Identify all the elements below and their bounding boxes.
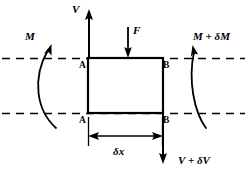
length-label: δx [113,146,124,157]
moment-right-label: M + δM [193,31,230,42]
moment-right-arc [191,45,206,128]
shear-force-left-arrow [85,9,93,58]
node-label-a-top: A [79,61,86,71]
length-dimension-line [88,117,163,146]
beam-element-rectangle [88,58,163,113]
node-label-b-top: B [163,61,169,71]
moment-left-arc [38,44,56,128]
node-label-a-bottom: A [79,116,86,126]
shear-right-label: V + δV [178,155,210,166]
applied-load-label: F [133,25,140,36]
applied-load-arrow [124,27,132,58]
moment-left-label: M [25,31,35,42]
node-label-b-bottom: B [163,116,169,126]
shear-left-label: V [72,4,79,15]
beam-element-diagram: V F M M + δM V + δV δx A B A B [0,0,247,180]
